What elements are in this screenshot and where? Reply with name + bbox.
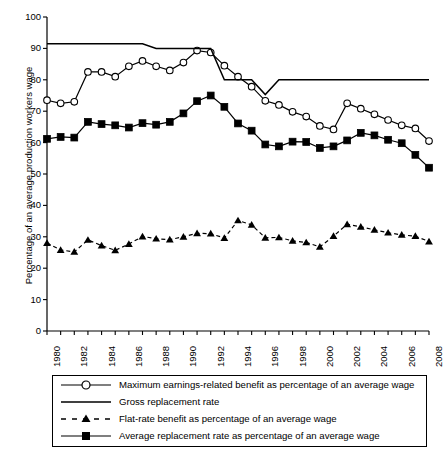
data-point-triangle xyxy=(275,234,283,241)
data-point-triangle xyxy=(425,238,433,245)
data-point-circle xyxy=(344,100,351,107)
data-point-triangle xyxy=(384,229,392,236)
data-point-circle xyxy=(166,67,173,74)
data-point-triangle xyxy=(152,235,160,242)
data-point-circle xyxy=(357,105,364,112)
legend-marker xyxy=(57,428,115,444)
data-point-circle xyxy=(317,123,324,130)
data-series xyxy=(43,44,433,255)
data-point-circle xyxy=(139,58,146,65)
data-point-circle xyxy=(398,122,405,129)
legend-item-label: Maximum earnings-related benefit as perc… xyxy=(115,379,414,390)
data-point-square xyxy=(426,164,433,171)
data-point-circle xyxy=(112,73,119,80)
data-point-triangle xyxy=(289,237,297,244)
data-point-square xyxy=(357,129,364,136)
legend-marker xyxy=(57,394,115,410)
legend-item[interactable]: Average replacement rate as percentage o… xyxy=(53,427,426,444)
data-point-triangle xyxy=(220,234,228,241)
legend-item[interactable]: Flat-rate benefit as percentage of an av… xyxy=(53,410,426,427)
data-point-square xyxy=(316,145,323,152)
series-3 xyxy=(44,92,433,171)
data-point-square xyxy=(289,138,296,145)
data-point-square xyxy=(112,122,119,129)
data-point-square xyxy=(412,151,419,158)
legend-key-line-plain xyxy=(57,394,115,410)
data-point-square xyxy=(344,137,351,144)
legend-item-label: Flat-rate benefit as percentage of an av… xyxy=(115,413,337,424)
data-point-circle xyxy=(385,117,392,124)
data-point-circle xyxy=(126,63,133,70)
data-point-square xyxy=(180,110,187,117)
data-point-triangle xyxy=(139,233,147,240)
series-line xyxy=(47,44,429,95)
data-point-circle xyxy=(85,69,92,76)
data-point-circle xyxy=(371,111,378,118)
data-point-triangle xyxy=(343,220,351,227)
data-point-triangle xyxy=(357,223,365,230)
data-point-circle xyxy=(153,63,160,70)
data-point-triangle xyxy=(398,231,406,238)
data-point-square xyxy=(248,127,255,134)
data-point-square xyxy=(125,124,132,131)
data-point-square xyxy=(153,121,160,128)
data-point-circle xyxy=(426,138,433,145)
chart-legend: Maximum earnings-related benefit as perc… xyxy=(52,375,427,447)
data-point-circle xyxy=(412,125,419,132)
data-point-triangle xyxy=(316,243,324,250)
data-point-square xyxy=(85,118,92,125)
legend-marker xyxy=(57,411,115,427)
data-point-triangle xyxy=(234,217,242,224)
data-point-triangle xyxy=(125,240,133,247)
legend-item[interactable]: Maximum earnings-related benefit as perc… xyxy=(53,376,426,393)
data-point-circle xyxy=(98,69,105,76)
data-point-circle xyxy=(303,113,310,120)
data-point-circle xyxy=(57,100,64,107)
data-point-square xyxy=(398,140,405,147)
data-point-circle xyxy=(289,109,296,116)
data-point-triangle xyxy=(193,230,201,237)
data-point-circle xyxy=(44,97,51,104)
data-point-square xyxy=(57,134,64,141)
series-1 xyxy=(47,44,429,95)
data-point-square xyxy=(194,98,201,105)
data-point-square xyxy=(385,136,392,143)
data-point-square xyxy=(71,134,78,141)
data-point-circle xyxy=(262,98,269,105)
data-point-square xyxy=(330,143,337,150)
data-point-triangle xyxy=(84,236,92,243)
data-point-triangle xyxy=(70,248,78,255)
data-point-triangle xyxy=(57,246,65,253)
data-point-triangle xyxy=(371,226,379,233)
data-point-square xyxy=(235,120,242,127)
data-point-triangle xyxy=(302,239,310,246)
data-point-square xyxy=(221,103,228,110)
series-2 xyxy=(43,217,433,255)
data-point-square xyxy=(303,139,310,146)
data-point-triangle xyxy=(180,233,188,240)
legend-key-line-open-circle xyxy=(57,377,115,393)
data-point-circle xyxy=(235,73,242,80)
data-point-circle xyxy=(180,59,187,66)
axes xyxy=(43,17,429,335)
data-point-square xyxy=(98,121,105,128)
data-point-square xyxy=(371,132,378,139)
data-point-triangle xyxy=(411,232,419,239)
data-point-circle xyxy=(71,98,78,105)
legend-item[interactable]: Gross replacement rate xyxy=(53,393,426,410)
data-point-square xyxy=(207,92,214,99)
legend-marker xyxy=(57,377,115,393)
data-point-circle xyxy=(276,102,283,109)
legend-key-line-filled-square xyxy=(57,428,115,444)
legend-item-label: Average replacement rate as percentage o… xyxy=(115,430,380,441)
data-point-square xyxy=(44,135,51,142)
data-point-triangle xyxy=(166,236,174,243)
data-point-square xyxy=(276,143,283,150)
data-point-square xyxy=(262,141,269,148)
data-point-square xyxy=(166,118,173,125)
legend-key-dashed-triangle xyxy=(57,411,115,427)
data-point-square xyxy=(139,120,146,127)
series-0 xyxy=(44,47,433,144)
data-point-triangle xyxy=(207,230,215,237)
